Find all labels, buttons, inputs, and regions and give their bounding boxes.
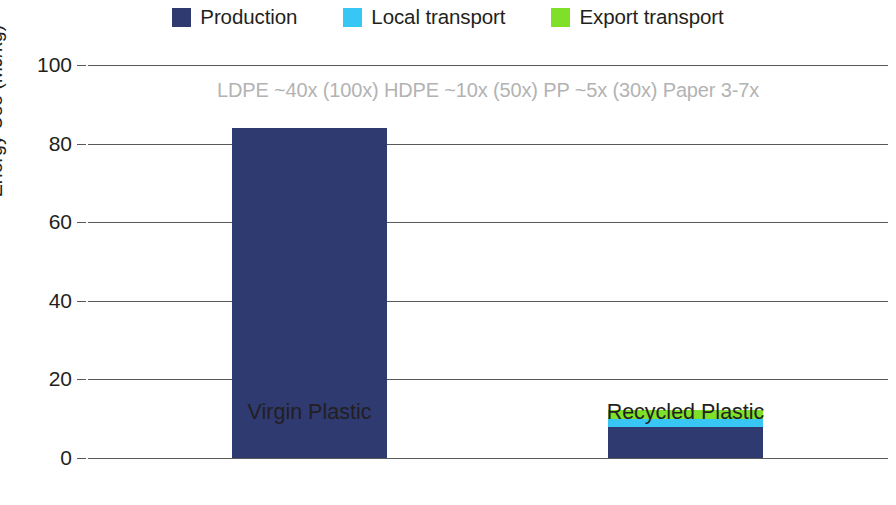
y-tick-label-100: 100 xyxy=(37,53,72,77)
energy-use-chart: Production Local transport Export transp… xyxy=(0,0,896,505)
gridline-80 xyxy=(88,144,888,145)
bar-segment-production xyxy=(608,427,763,458)
y-tick-20 xyxy=(77,379,86,380)
y-tick-100 xyxy=(77,65,86,66)
y-tick-40 xyxy=(77,301,86,302)
legend-swatch-production-icon xyxy=(172,8,191,27)
y-tick-label-20: 20 xyxy=(49,367,72,391)
y-axis-title: Energy Use (MJ/kg) xyxy=(0,0,7,261)
y-tick-0 xyxy=(77,458,86,459)
legend-label-production: Production xyxy=(200,5,297,29)
y-tick-label-0: 0 xyxy=(60,446,72,470)
chart-legend: Production Local transport Export transp… xyxy=(0,0,896,34)
legend-label-local-transport: Local transport xyxy=(371,5,505,29)
chart-annotation: LDPE ~40x (100x) HDPE ~10x (50x) PP ~5x … xyxy=(88,79,888,102)
gridline-0 xyxy=(88,458,888,459)
legend-item-export-transport: Export transport xyxy=(551,5,723,29)
y-tick-80 xyxy=(77,144,86,145)
gridline-60 xyxy=(88,222,888,223)
y-tick-label-60: 60 xyxy=(49,210,72,234)
legend-swatch-export-transport-icon xyxy=(551,8,570,27)
gridline-20 xyxy=(88,379,888,380)
y-tick-60 xyxy=(77,222,86,223)
legend-swatch-local-transport-icon xyxy=(343,8,362,27)
x-category-label-recycled-plastic: Recycled Plastic xyxy=(571,400,801,425)
gridline-40 xyxy=(88,301,888,302)
legend-item-local-transport: Local transport xyxy=(343,5,505,29)
legend-item-production: Production xyxy=(172,5,297,29)
y-tick-label-80: 80 xyxy=(49,132,72,156)
y-tick-label-40: 40 xyxy=(49,289,72,313)
gridline-100 xyxy=(88,65,888,66)
x-category-label-virgin-plastic: Virgin Plastic xyxy=(195,400,425,425)
legend-label-export-transport: Export transport xyxy=(579,5,723,29)
